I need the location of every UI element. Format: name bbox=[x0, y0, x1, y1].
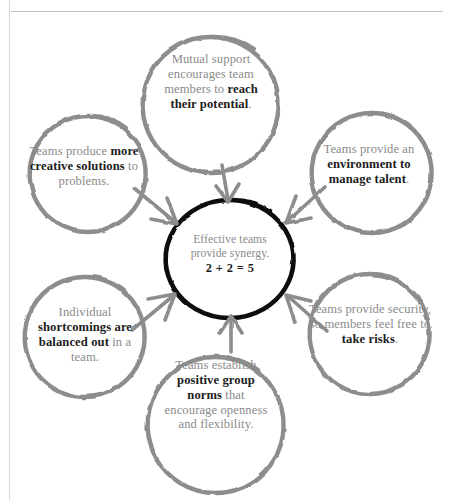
node-upper-right-emphasis: environment to manage talent bbox=[327, 157, 410, 186]
node-label-top: Mutual support encourages team members t… bbox=[155, 52, 267, 111]
node-label-lower-left: Individual shortcomings are balanced out… bbox=[24, 305, 146, 364]
arrow-upper-left-to-center bbox=[134, 188, 177, 224]
arrow-bottom-to-center bbox=[220, 316, 242, 352]
node-lower-right-tail: . bbox=[395, 332, 398, 346]
center-line-1: Effective teams bbox=[193, 233, 267, 246]
node-lower-right-lead: Teams provide security, so members feel … bbox=[309, 302, 431, 331]
node-bottom-lead: Teams establish bbox=[175, 358, 256, 372]
node-label-upper-right: Teams provide an environment to manage t… bbox=[308, 142, 430, 187]
node-lower-right-emphasis: take risks bbox=[342, 332, 395, 346]
diagram-page: Mutual support encourages team members t… bbox=[0, 0, 455, 500]
center-equation: 2 + 2 = 5 bbox=[206, 261, 255, 276]
node-label-lower-right: Teams provide security, so members feel … bbox=[308, 302, 432, 347]
center-line-2: provide synergy. bbox=[191, 247, 270, 260]
node-upper-left-lead: Teams produce bbox=[29, 144, 110, 158]
node-label-bottom: Teams establish positive group norms tha… bbox=[160, 358, 272, 432]
node-label-upper-left: Teams produce more creative solutions to… bbox=[24, 144, 144, 189]
node-upper-right-lead: Teams provide an bbox=[324, 142, 415, 156]
node-lower-left-lead: Individual bbox=[59, 305, 112, 319]
node-upper-right-tail: . bbox=[406, 172, 409, 186]
node-top-tail: . bbox=[248, 97, 251, 111]
center-label: Effective teams provide synergy. 2 + 2 =… bbox=[168, 233, 292, 276]
